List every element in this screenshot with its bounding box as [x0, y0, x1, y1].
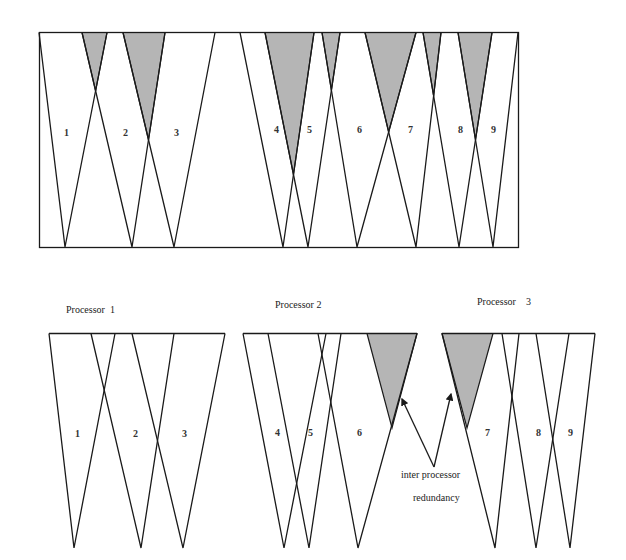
p1-region-label-2: 2 [133, 428, 138, 439]
top-region-label-3: 3 [174, 127, 179, 138]
processor-panels: 1 2 3 4 5 6 7 8 9 inter processor redund… [49, 334, 595, 549]
redundancy-arrow-right [434, 394, 451, 467]
p3-subdomain-triangle-9 [536, 334, 595, 549]
p3-ghost-overlap-shade [442, 334, 493, 429]
top-region-label-5: 5 [307, 124, 312, 135]
annotation-redundancy: redundancy [413, 492, 460, 503]
p3-region-label-7: 7 [485, 427, 490, 438]
p2-region-label-4: 4 [275, 427, 280, 438]
processor-triangles [49, 334, 595, 549]
p1-region-label-3: 3 [182, 428, 187, 439]
top-region-label-6: 6 [357, 124, 362, 135]
top-overlap-shade-5 [365, 33, 416, 132]
top-region-label-8: 8 [458, 124, 463, 135]
top-region-label-4: 4 [274, 124, 279, 135]
top-region-label-7: 7 [408, 124, 413, 135]
top-overlap-shade-1 [82, 33, 107, 91]
processor-1-label: Processor 1 [66, 304, 115, 315]
top-region-label-9: 9 [491, 124, 496, 135]
p3-region-label-8: 8 [536, 427, 541, 438]
top-overlap-shade-7 [458, 33, 492, 140]
inter-processor-shaded-overlaps [367, 334, 493, 429]
p1-subdomain-triangle-1 [49, 334, 115, 549]
top-shaded-overlaps [82, 33, 492, 175]
decomposition-figure: 1 2 3 4 5 6 7 8 9 Processor 1 Processor … [0, 0, 626, 560]
processor-3-label: Processor 3 [477, 296, 531, 307]
top-region-label-2: 2 [123, 127, 128, 138]
p2-region-label-5: 5 [308, 427, 313, 438]
redundancy-arrow-left [402, 399, 434, 467]
top-region-label-1: 1 [64, 127, 69, 138]
p2-region-label-6: 6 [357, 427, 362, 438]
top-diagram: 1 2 3 4 5 6 7 8 9 [39, 33, 519, 248]
annotation-inter-processor: inter processor [401, 469, 461, 480]
processor-2-label: Processor 2 [275, 299, 321, 310]
p3-region-label-9: 9 [568, 427, 573, 438]
p1-subdomain-triangle-2 [91, 334, 174, 549]
p3-subdomain-triangle-8 [502, 334, 569, 549]
top-overlap-shade-4 [322, 33, 340, 91]
p1-region-label-1: 1 [75, 428, 80, 439]
top-overlap-shade-2 [123, 33, 165, 140]
